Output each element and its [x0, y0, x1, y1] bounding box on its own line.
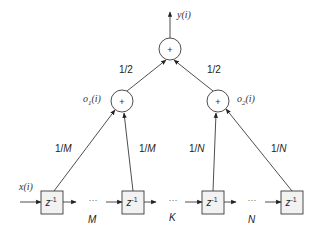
- weight-top-right: 1/2: [207, 64, 221, 75]
- moving-average-filter-diagram: y(i) + 1/2 1/2 + o1(i) + o2(i) 1/M 1/M 1…: [0, 0, 318, 237]
- tap-line-3: [213, 113, 216, 191]
- weight-left-inner: 1/M: [139, 143, 156, 154]
- delay-block-3: z-1: [202, 191, 224, 214]
- top-adder: +: [159, 38, 181, 60]
- tap-line-2: [124, 113, 133, 191]
- weight-right-inner: 1/N: [189, 143, 205, 154]
- right-adder: +: [207, 90, 229, 112]
- delay-block-1: z-1: [41, 191, 63, 214]
- input-label: x(i): [18, 181, 34, 193]
- plus-icon: +: [119, 97, 124, 107]
- left-adder: +: [111, 90, 133, 112]
- segment-label-n: N: [248, 214, 256, 225]
- segment-label-k: K: [169, 212, 177, 223]
- left-adder-label: o1(i): [83, 93, 102, 107]
- weight-right-outer: 1/N: [271, 143, 287, 154]
- plus-icon: +: [215, 97, 220, 107]
- ellipsis: ···: [169, 195, 178, 205]
- delay-block-4: z-1: [281, 191, 303, 214]
- delay-block-2: z-1: [122, 191, 144, 214]
- right-adder-label: o2(i): [237, 93, 256, 107]
- weight-top-left: 1/2: [119, 64, 133, 75]
- plus-icon: +: [167, 45, 172, 55]
- output-label: y(i): [176, 9, 192, 21]
- ellipsis: ···: [248, 195, 257, 205]
- segment-label-m: M: [88, 214, 97, 225]
- ellipsis: ···: [89, 195, 98, 205]
- weight-left-outer: 1/M: [55, 143, 72, 154]
